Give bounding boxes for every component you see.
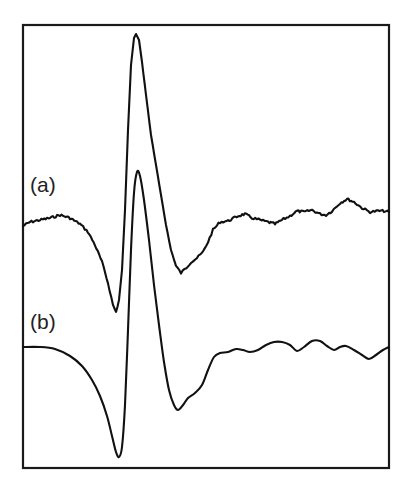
traces-group: [23, 34, 389, 457]
trace-a: [23, 34, 389, 312]
trace-b: [23, 171, 389, 457]
series-label-a: (a): [30, 173, 56, 196]
labels-group: (a) (b): [30, 173, 56, 333]
series-label-b: (b): [30, 310, 56, 333]
chart-figure: (a) (b): [0, 0, 412, 485]
